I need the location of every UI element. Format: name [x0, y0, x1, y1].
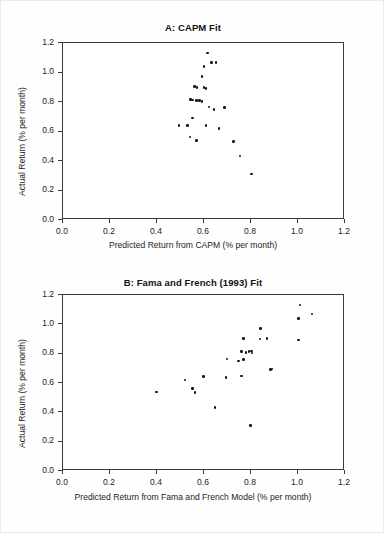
y-tick-label: 1.0 [28, 66, 54, 76]
x-tick-label: 0.2 [92, 477, 126, 487]
y-tick-label: 1.2 [28, 37, 54, 47]
panel-a-plot-area [62, 42, 344, 219]
x-tick-label: 0.8 [233, 226, 267, 236]
panel-b-plot-area [62, 294, 344, 470]
y-tick-label: 0.8 [28, 96, 54, 106]
panel-a-title: A: CAPM Fit [1, 22, 384, 33]
y-tick-label: 0.4 [28, 155, 54, 165]
y-tick-mark [58, 294, 62, 295]
scatter-point [202, 375, 205, 378]
x-tick-mark [62, 470, 63, 474]
x-tick-mark [250, 219, 251, 223]
x-tick-mark [344, 470, 345, 474]
scatter-point [242, 337, 245, 340]
y-tick-mark [58, 411, 62, 412]
y-tick-label: 0.6 [28, 377, 54, 387]
scatter-point [215, 61, 218, 64]
x-tick-label: 0.8 [233, 477, 267, 487]
panel-a-y-axis-title: Actual Return (% per month) [17, 87, 27, 196]
scatter-point [245, 351, 248, 354]
scatter-point [297, 317, 300, 320]
x-tick-label: 1.2 [327, 226, 361, 236]
y-tick-mark [58, 470, 62, 471]
figure-container: A: CAPM Fit Actual Return (% per month) … [0, 0, 384, 533]
panel-fama-french-fit: B: Fama and French (1993) Fit Actual Ret… [1, 267, 384, 533]
y-tick-label: 0.0 [28, 214, 54, 224]
x-tick-mark [109, 470, 110, 474]
scatter-point [259, 327, 262, 330]
scatter-point [195, 139, 198, 142]
y-tick-mark [58, 42, 62, 43]
x-tick-mark [156, 470, 157, 474]
x-tick-label: 1.0 [280, 226, 314, 236]
x-tick-label: 0.4 [139, 477, 173, 487]
x-tick-label: 1.0 [280, 477, 314, 487]
scatter-point [191, 117, 194, 120]
y-tick-mark [58, 190, 62, 191]
panel-b-title: B: Fama and French (1993) Fit [1, 277, 384, 288]
y-tick-mark [58, 441, 62, 442]
scatter-point [223, 106, 226, 109]
panel-b-y-axis-title: Actual Return (% per month) [17, 339, 27, 448]
x-tick-label: 0.4 [139, 226, 173, 236]
x-tick-mark [62, 219, 63, 223]
x-tick-mark [203, 470, 204, 474]
y-tick-mark [58, 219, 62, 220]
x-tick-mark [344, 219, 345, 223]
scatter-point [201, 75, 204, 78]
scatter-point [210, 61, 213, 64]
x-tick-mark [297, 470, 298, 474]
scatter-point [232, 140, 235, 143]
scatter-point [191, 387, 194, 390]
y-tick-label: 1.2 [28, 289, 54, 299]
scatter-point [186, 124, 189, 127]
y-tick-label: 0.2 [28, 184, 54, 194]
x-tick-label: 0.0 [45, 226, 79, 236]
y-tick-mark [58, 72, 62, 73]
y-tick-mark [58, 131, 62, 132]
y-tick-mark [58, 323, 62, 324]
panel-b-x-axis-title: Predicted Return from Fama and French Mo… [1, 492, 384, 502]
y-tick-label: 0.6 [28, 125, 54, 135]
scatter-point [240, 350, 243, 353]
y-tick-label: 0.4 [28, 406, 54, 416]
scatter-point [242, 358, 245, 361]
x-tick-label: 0.6 [186, 477, 220, 487]
y-tick-mark [58, 101, 62, 102]
scatter-point [266, 337, 269, 340]
scatter-point [214, 406, 217, 409]
y-tick-label: 1.0 [28, 318, 54, 328]
scatter-point [205, 87, 208, 90]
x-tick-label: 0.6 [186, 226, 220, 236]
y-tick-mark [58, 353, 62, 354]
x-tick-mark [203, 219, 204, 223]
x-tick-label: 0.2 [92, 226, 126, 236]
x-tick-mark [297, 219, 298, 223]
scatter-point [213, 108, 216, 111]
x-tick-mark [156, 219, 157, 223]
y-tick-label: 0.8 [28, 347, 54, 357]
scatter-point [249, 424, 252, 427]
scatter-point [178, 124, 181, 127]
y-tick-label: 0.0 [28, 465, 54, 475]
y-tick-mark [58, 382, 62, 383]
x-tick-label: 1.2 [327, 477, 361, 487]
x-tick-mark [250, 470, 251, 474]
panel-capm-fit: A: CAPM Fit Actual Return (% per month) … [1, 1, 384, 267]
y-tick-label: 0.2 [28, 435, 54, 445]
y-tick-mark [58, 160, 62, 161]
x-tick-label: 0.0 [45, 477, 79, 487]
panel-a-x-axis-title: Predicted Return from CAPM (% per month) [1, 240, 384, 250]
x-tick-mark [109, 219, 110, 223]
